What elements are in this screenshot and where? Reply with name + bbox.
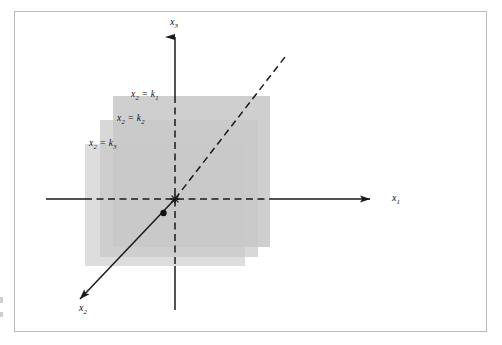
plane-label-k2-eq: = — [128, 113, 135, 123]
x1-axis-label: x1 — [392, 192, 400, 206]
plane-rect-k3 — [85, 144, 245, 266]
origin-marker — [171, 195, 180, 204]
x3-axis-label-sub: 3 — [174, 22, 178, 30]
plane-label-k1-eq: = — [142, 89, 149, 99]
plane-label-k1-k-sub: 1 — [155, 94, 159, 101]
x2-axis-label-sub: 2 — [83, 308, 87, 316]
plane-label-k2-k-sub: 2 — [141, 118, 145, 125]
diagram-svg — [0, 0, 502, 345]
plane-label-k2: x2 = k2 — [117, 113, 145, 125]
plane-label-k3-eq: = — [100, 138, 107, 148]
plane-label-k1: x2 = k1 — [131, 89, 159, 101]
plane-label-k2-x-sub: 2 — [121, 118, 125, 125]
data-point — [160, 210, 166, 216]
x3-axis-label: x3 — [170, 16, 178, 30]
plane-label-k1-x-sub: 2 — [135, 94, 139, 101]
planes-group — [85, 96, 270, 266]
plane-label-k3-k-sub: 3 — [113, 143, 117, 150]
figure-canvas: x2 = k1 x2 = k2 x2 = k3 x3 x1 x2 — [0, 0, 502, 345]
x1-axis-label-sub: 1 — [396, 198, 400, 206]
x2-axis-label: x2 — [79, 302, 87, 316]
plane-label-k3: x2 = k3 — [89, 138, 117, 150]
plane-label-k3-x-sub: 2 — [93, 143, 97, 150]
